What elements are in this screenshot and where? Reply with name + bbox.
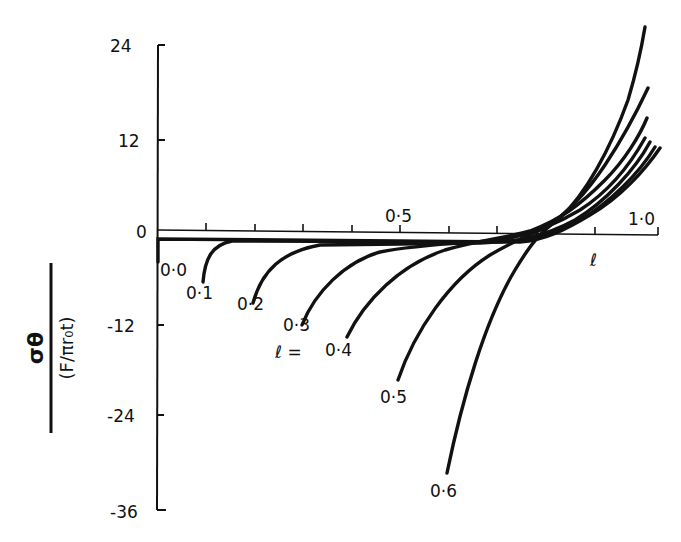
y-tick-0: 0 (136, 222, 147, 242)
x-tick-1-0: 1·0 (628, 209, 655, 229)
label-e-0-1: 0·1 (186, 283, 213, 303)
label-e-0-5: 0·5 (380, 387, 407, 407)
y-tick-12: 12 (118, 131, 140, 151)
y-axis-numerator: σθ (23, 332, 48, 364)
y-tick-m24: -24 (107, 406, 135, 426)
label-e-0-6: 0·6 (430, 481, 457, 501)
label-e-0-2: 0·2 (237, 294, 264, 314)
curve-labels: 0·0 0·1 0·2 0·3 ℓ = 0·4 0·5 0·6 (160, 260, 457, 501)
label-e-0-3: 0·3 (283, 315, 310, 335)
curve-e-0-6 (447, 27, 645, 473)
y-tick-m12: -12 (107, 316, 135, 336)
label-e-equals: ℓ = (274, 342, 302, 362)
y-axis-label: σθ (F/πr₀t) (6, 248, 96, 448)
x-tick-0-5: 0·5 (385, 206, 412, 226)
label-e-0-4: 0·4 (325, 340, 352, 360)
curve-e-0-1 (203, 147, 655, 282)
chart-canvas: 24 12 0 -12 -24 -36 0·5 1·0 ℓ 0·0 0·1 0·… (0, 0, 681, 542)
y-tick-labels: 24 12 0 -12 -24 -36 (107, 36, 147, 522)
y-tick-24: 24 (110, 36, 132, 56)
curves (158, 27, 660, 473)
x-axis-symbol: ℓ (589, 250, 597, 270)
y-axis-denominator: (F/πr₀t) (56, 317, 77, 380)
curve-e-0-2 (253, 142, 650, 303)
label-e-0-0: 0·0 (160, 260, 187, 280)
y-tick-m36: -36 (110, 502, 138, 522)
